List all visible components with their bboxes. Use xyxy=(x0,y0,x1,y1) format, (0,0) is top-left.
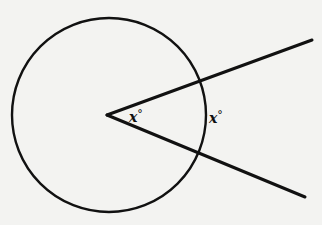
central-angle-degree: ° xyxy=(137,108,143,121)
diagram-canvas: x° x° xyxy=(0,0,322,225)
geometry-figure xyxy=(0,0,322,225)
arc-degree: ° xyxy=(217,109,223,122)
arc-label: x° xyxy=(209,111,223,125)
central-angle-label: x° xyxy=(129,110,143,124)
upper-ray xyxy=(107,40,312,115)
